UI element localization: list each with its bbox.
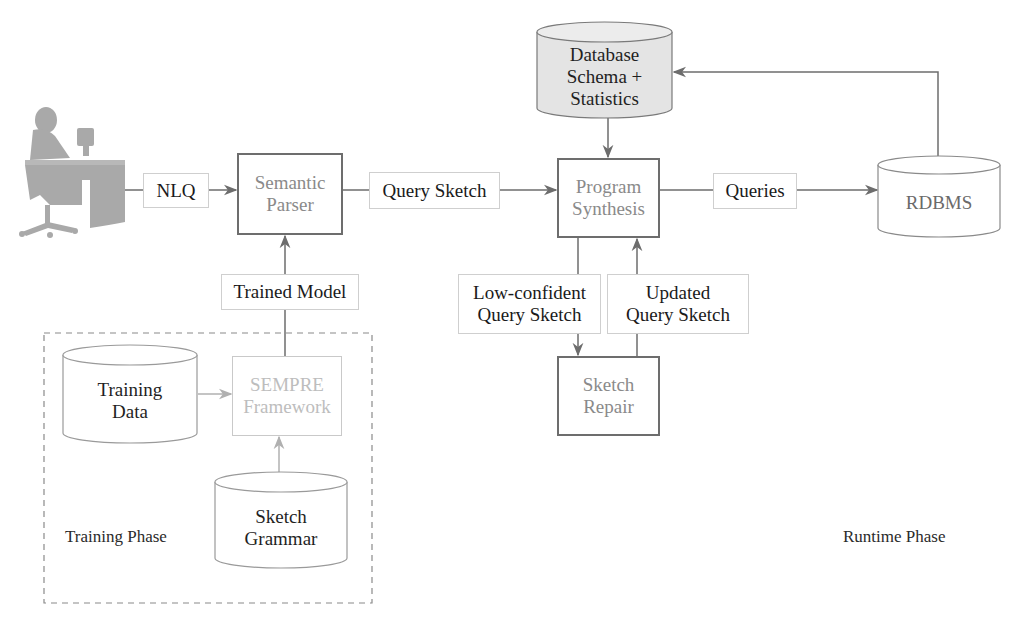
- person-at-computer-icon: [19, 107, 125, 238]
- program-synthesis-line1: Program: [576, 176, 641, 198]
- semantic-parser-line1: Semantic: [255, 172, 326, 194]
- training-data-line2: Data: [112, 401, 148, 423]
- updated-query-sketch-label: Updated Query Sketch: [607, 274, 749, 334]
- program-synthesis-box: Program Synthesis: [557, 158, 660, 238]
- semantic-parser-line2: Parser: [266, 194, 313, 216]
- sempre-framework-box: SEMPRE Framework: [232, 356, 342, 436]
- low-confident-line1: Low-confident: [473, 282, 586, 304]
- queries-label: Queries: [713, 173, 797, 209]
- database-schema-line1: Database: [570, 44, 640, 66]
- sketch-grammar-line2: Grammar: [245, 528, 318, 550]
- training-data-label: Training Data: [63, 366, 197, 436]
- training-phase-label: Training Phase: [65, 527, 167, 547]
- sketch-repair-line2: Repair: [583, 396, 634, 418]
- sketch-repair-line1: Sketch: [583, 374, 635, 396]
- program-synthesis-line2: Synthesis: [572, 198, 645, 220]
- training-data-line1: Training: [98, 379, 163, 401]
- sempre-line2: Framework: [243, 396, 331, 418]
- nlq-label: NLQ: [143, 173, 209, 208]
- database-schema-line3: Statistics: [570, 88, 639, 110]
- semantic-parser-box: Semantic Parser: [237, 153, 343, 235]
- rdbms-label: RDBMS: [878, 174, 1000, 232]
- sempre-line1: SEMPRE: [250, 374, 324, 396]
- low-confident-line2: Query Sketch: [478, 304, 582, 326]
- sketch-grammar-label: Sketch Grammar: [215, 494, 347, 562]
- runtime-phase-label: Runtime Phase: [843, 527, 945, 547]
- updated-line2: Query Sketch: [626, 304, 730, 326]
- updated-line1: Updated: [646, 282, 710, 304]
- query-sketch-label: Query Sketch: [369, 172, 500, 209]
- database-schema-label: Database Schema + Statistics: [537, 40, 672, 114]
- database-schema-line2: Schema +: [567, 66, 643, 88]
- low-confident-query-sketch-label: Low-confident Query Sketch: [458, 274, 601, 334]
- sketch-grammar-line1: Sketch: [255, 506, 307, 528]
- sketch-repair-box: Sketch Repair: [557, 356, 660, 436]
- trained-model-label: Trained Model: [221, 274, 359, 310]
